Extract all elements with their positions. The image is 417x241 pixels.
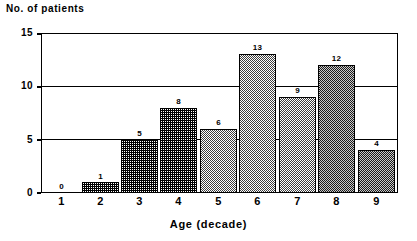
bar-slot-3: 5 (121, 33, 158, 193)
bar-9 (358, 150, 395, 193)
x-tick-label-9: 9 (358, 195, 395, 207)
y-tick-label-15: 15 (5, 27, 33, 38)
bar-slot-2: 1 (82, 33, 119, 193)
bar-value-label-4: 8 (160, 97, 197, 106)
bar-3 (121, 140, 158, 193)
bar-value-label-1: 0 (43, 182, 80, 191)
bar-value-label-8: 12 (318, 54, 355, 63)
bar-5 (200, 129, 237, 193)
bar-6 (239, 54, 276, 193)
y-tick-label-0: 0 (5, 187, 33, 198)
bar-slot-7: 9 (279, 33, 316, 193)
x-axis-title: Age (decade) (0, 218, 417, 230)
bar-slot-8: 12 (318, 33, 355, 193)
bar-slot-5: 6 (200, 33, 237, 193)
bar-2 (82, 182, 119, 193)
bar-7 (279, 97, 316, 193)
bar-slot-4: 8 (160, 33, 197, 193)
bar-value-label-6: 13 (239, 43, 276, 52)
x-tick-label-2: 2 (82, 195, 119, 207)
bar-value-label-9: 4 (358, 139, 395, 148)
bar-value-label-5: 6 (200, 118, 237, 127)
x-axis: 1 2 3 4 5 6 7 8 9 (41, 195, 398, 211)
bar-chart: No. of patients 15 10 5 0 0 1 5 8 (0, 0, 417, 241)
bar-slot-9: 4 (358, 33, 395, 193)
x-tick-label-1: 1 (43, 195, 80, 207)
bar-slot-6: 13 (239, 33, 276, 193)
bars-layer: 0 1 5 8 6 13 9 12 (41, 33, 398, 193)
x-tick-label-4: 4 (160, 195, 197, 207)
x-tick-label-6: 6 (239, 195, 276, 207)
chart-title: No. of patients (6, 3, 84, 14)
bar-slot-1: 0 (43, 33, 80, 193)
bar-value-label-2: 1 (82, 172, 119, 181)
bar-value-label-7: 9 (279, 86, 316, 95)
x-tick-label-7: 7 (279, 195, 316, 207)
x-tick-label-8: 8 (318, 195, 355, 207)
bar-4 (160, 108, 197, 193)
x-tick-label-5: 5 (200, 195, 237, 207)
bar-8 (318, 65, 355, 193)
bar-value-label-3: 5 (121, 129, 158, 138)
y-tick-label-5: 5 (5, 134, 33, 145)
x-tick-label-3: 3 (121, 195, 158, 207)
y-tick-label-10: 10 (5, 80, 33, 91)
